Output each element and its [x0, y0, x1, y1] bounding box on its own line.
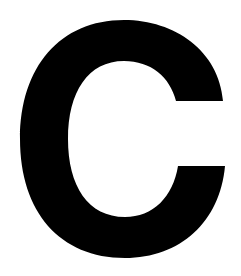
letter-c-glyph: C [0, 0, 241, 276]
letter-c-shape [20, 20, 225, 258]
